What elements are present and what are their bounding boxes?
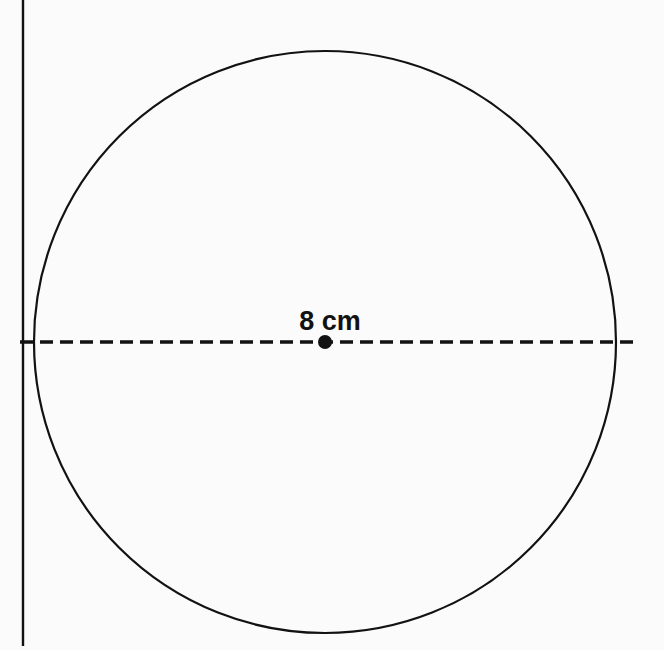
geometry-figure: 8 cm bbox=[0, 0, 664, 650]
diameter-label: 8 cm bbox=[299, 306, 361, 336]
center-point bbox=[318, 335, 332, 349]
figure-canvas: 8 cm bbox=[0, 0, 664, 650]
